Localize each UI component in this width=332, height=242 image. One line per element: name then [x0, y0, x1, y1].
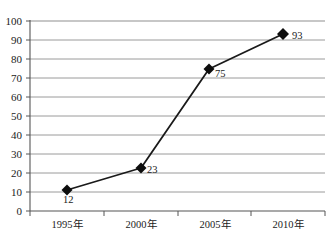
y-axis-label: 0 — [17, 205, 23, 217]
data-point-label: 75 — [215, 68, 226, 79]
chart-canvas: 100 90 80 70 60 50 40 30 20 10 0 1995年 2… — [0, 0, 332, 242]
x-axis-label: 2010年 — [273, 218, 304, 230]
y-axis-label: 30 — [11, 148, 23, 160]
x-axis-label: 2005年 — [200, 218, 231, 230]
y-axis-label: 80 — [11, 53, 23, 65]
y-axis-label: 50 — [11, 110, 23, 122]
y-axis-label: 100 — [6, 15, 23, 27]
line-chart: 100 90 80 70 60 50 40 30 20 10 0 1995年 2… — [0, 0, 332, 242]
y-axis-label: 20 — [11, 167, 23, 179]
data-point-label: 93 — [292, 30, 303, 41]
y-axis-label: 60 — [11, 91, 23, 103]
y-axis-label: 40 — [11, 129, 23, 141]
x-axis-label: 1995年 — [52, 218, 83, 230]
y-axis-label: 10 — [11, 186, 23, 198]
data-point-label: 12 — [63, 194, 74, 205]
x-axis-label: 2000年 — [126, 218, 157, 230]
y-axis-label: 70 — [11, 72, 23, 84]
data-point-label: 23 — [147, 164, 158, 175]
y-axis-label: 90 — [11, 34, 23, 46]
